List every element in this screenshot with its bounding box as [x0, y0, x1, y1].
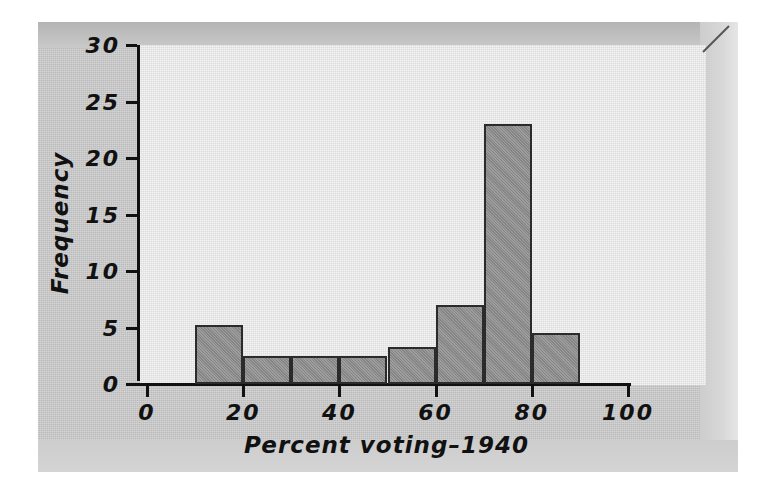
y-axis-title: Frequency	[47, 123, 73, 323]
plot-panel	[140, 45, 706, 385]
figure-root: 051015202530 020406080100 Percent voting…	[0, 0, 773, 493]
x-axis-title: Percent voting–1940	[0, 432, 773, 458]
corner-scan-artifact	[701, 24, 731, 54]
